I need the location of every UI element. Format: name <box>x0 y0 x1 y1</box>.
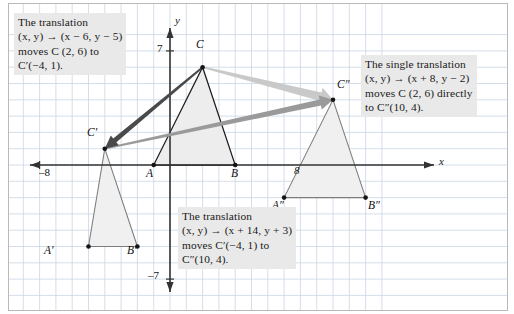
tick-label-y-neg7: –7 <box>148 269 159 281</box>
vertex-label-A: A <box>146 167 153 179</box>
callout-first-translation-text: The translation (x, y) → (x − 6, y − 5) … <box>18 16 122 71</box>
callout-second-translation: The translation (x, y) → (x + 14, y + 3)… <box>178 207 296 269</box>
vertex-label-C-double-prime: C″ <box>337 78 349 90</box>
tick-label-x-neg8: –8 <box>39 166 50 178</box>
tick-label-x-pos8: 8 <box>294 164 300 176</box>
callout-single-translation: The single translation (x, y) → (x + 8, … <box>361 55 477 117</box>
vertex-label-B: B <box>231 167 238 179</box>
x-axis-label: x <box>439 155 444 167</box>
vertex-label-C-prime: C′ <box>87 126 97 138</box>
callout-single-translation-text: The single translation (x, y) → (x + 8, … <box>365 58 473 113</box>
figure-canvas: x y –8 8 7 –7 C A B C′ A′ B′ C″ A″ B″ Th… <box>0 0 514 314</box>
vertex-label-A-prime: A′ <box>44 244 54 256</box>
y-axis-label: y <box>175 14 180 26</box>
callout-second-translation-text: The translation (x, y) → (x + 14, y + 3)… <box>182 210 292 265</box>
vertex-label-B-prime: B′ <box>127 244 137 256</box>
vertex-label-C: C <box>196 38 204 50</box>
tick-label-y-pos7: 7 <box>157 42 163 54</box>
callout-first-translation: The translation (x, y) → (x − 6, y − 5) … <box>14 13 126 75</box>
vertex-label-B-double-prime: B″ <box>368 199 380 211</box>
